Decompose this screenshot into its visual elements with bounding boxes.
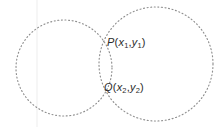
point-q-y-var: y bbox=[130, 81, 136, 93]
point-label-p: P(x1,y1) bbox=[107, 37, 146, 48]
figure-canvas bbox=[0, 0, 224, 127]
circle-intersection-figure: P(x1,y1) Q(x2,y2) bbox=[0, 0, 224, 127]
point-q-y-sub: 2 bbox=[136, 86, 140, 95]
point-p-letter: P bbox=[107, 36, 115, 48]
point-q-letter: Q bbox=[104, 81, 113, 93]
right-circle bbox=[99, 7, 213, 121]
left-circle bbox=[16, 20, 112, 116]
point-q-x-sub: 2 bbox=[122, 86, 126, 95]
point-label-q: Q(x2,y2) bbox=[104, 82, 144, 93]
point-p-y-sub: 1 bbox=[137, 41, 141, 50]
point-p-x-sub: 1 bbox=[124, 41, 128, 50]
